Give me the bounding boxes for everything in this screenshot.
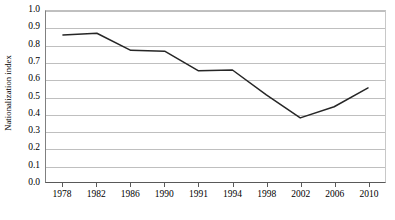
y-axis-tick-label: 0.1 xyxy=(28,161,40,171)
y-axis-tick-label: 0.9 xyxy=(28,23,40,33)
x-axis-tick-label: 1982 xyxy=(87,189,106,199)
y-axis-tick-label: 0.3 xyxy=(28,126,40,136)
x-axis-tick-mark xyxy=(164,183,165,187)
x-axis-tick-label: 1986 xyxy=(121,189,140,199)
x-axis-tick-label: 1978 xyxy=(53,189,72,199)
x-axis-tick-label: 1990 xyxy=(155,189,174,199)
x-axis-tick-mark xyxy=(233,183,234,187)
x-axis-tick-mark xyxy=(130,183,131,187)
x-axis-tick-label: 1998 xyxy=(257,189,276,199)
series-line-nationalization-index xyxy=(46,11,385,182)
y-axis-tick-label: 0.7 xyxy=(28,57,40,67)
y-axis-tick-labels: 1.00.90.80.70.60.50.40.30.20.10.0 xyxy=(16,10,42,183)
y-axis-title-text: Nationalization index xyxy=(3,55,13,131)
y-axis-tick-label: 0.0 xyxy=(28,178,40,188)
x-axis-tick-label: 1994 xyxy=(223,189,242,199)
y-axis-tick-label: 0.4 xyxy=(28,109,40,119)
x-axis-tick-mark xyxy=(62,183,63,187)
x-axis-tick-mark xyxy=(198,183,199,187)
x-axis-tick-label: 2010 xyxy=(359,189,378,199)
x-axis-tick-mark xyxy=(301,183,302,187)
x-axis-tick-marks xyxy=(45,183,386,188)
y-axis-title: Nationalization index xyxy=(0,0,16,186)
x-axis-tick-mark xyxy=(369,183,370,187)
x-axis-tick-mark xyxy=(267,183,268,187)
y-axis-tick-label: 0.5 xyxy=(28,92,40,102)
y-axis-tick-label: 0.8 xyxy=(28,40,40,50)
y-axis-tick-label: 1.0 xyxy=(28,5,40,15)
y-axis-tick-label: 0.6 xyxy=(28,74,40,84)
x-axis-tick-mark xyxy=(96,183,97,187)
x-axis-tick-mark xyxy=(335,183,336,187)
x-axis-tick-label: 2006 xyxy=(325,189,344,199)
line-chart: Nationalization index 1.00.90.80.70.60.5… xyxy=(0,0,395,220)
plot-area xyxy=(45,10,386,183)
x-axis-tick-labels: 1978198219861990199119941998200220062010 xyxy=(45,189,386,205)
x-axis-tick-label: 1991 xyxy=(189,189,208,199)
x-axis-tick-label: 2002 xyxy=(291,189,310,199)
series-polyline xyxy=(63,33,368,118)
y-axis-tick-label: 0.2 xyxy=(28,144,40,154)
